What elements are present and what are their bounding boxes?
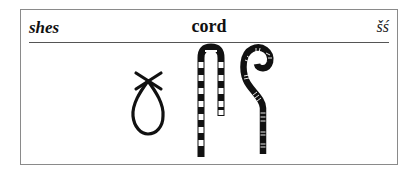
- loop-cord-icon: [133, 73, 163, 134]
- striped-crook-staff-icon: [244, 47, 272, 154]
- striped-hook-staff-icon: [199, 47, 224, 157]
- hieroglyph-group: [0, 0, 413, 174]
